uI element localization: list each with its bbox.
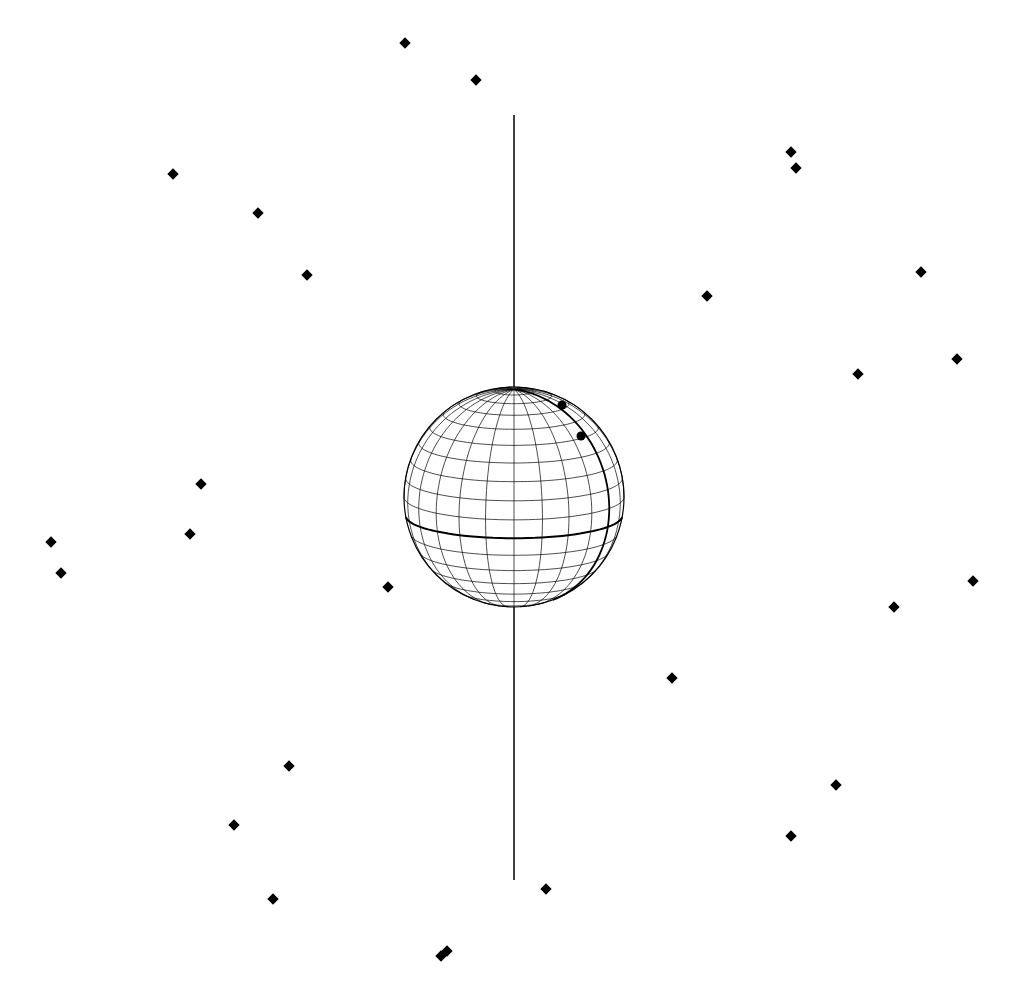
celestial-diagram	[0, 0, 1015, 993]
sphere-point	[577, 432, 586, 441]
sphere-scene	[0, 0, 1015, 993]
sphere-point	[558, 401, 567, 410]
